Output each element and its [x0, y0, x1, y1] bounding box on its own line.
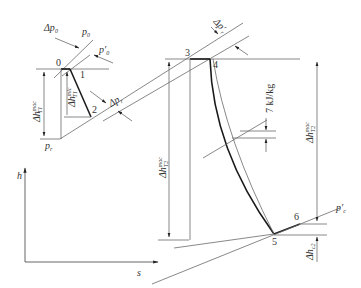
dp0-label: Δp0: [43, 22, 58, 34]
p0-prime-isobar: [62, 55, 90, 76]
dp0-arrow: [55, 38, 79, 48]
pr-isobars: Δpr: [60, 23, 249, 139]
h-axis-label: h: [17, 170, 22, 181]
dpr-label: Δpr: [106, 92, 125, 110]
dpr-arrow-2: [118, 111, 132, 121]
point-1-label: 1: [80, 69, 85, 80]
point-4-label: 4: [213, 59, 218, 70]
point-5-label: 5: [272, 236, 277, 247]
dh-t2-mac-right-label: ΔhmacT2: [304, 122, 316, 144]
s-axis-label: s: [137, 267, 141, 278]
point-3-label: 3: [185, 47, 190, 58]
point-2-label: 2: [92, 104, 97, 115]
annotation-label: 7 kJ/kg: [264, 84, 275, 113]
dh-t1-mic-label: ΔhmicT1: [66, 87, 78, 108]
pr-prime-isobar: [103, 36, 249, 121]
p0-label: p0: [81, 26, 90, 38]
pr-isobar: [60, 23, 243, 139]
dpr-prime-arrow-2: [235, 46, 248, 55]
dpr-arrow: [90, 91, 106, 103]
pr-label: pr: [44, 140, 53, 152]
dh-t2-mac-left-label: ΔhmacT2: [157, 157, 169, 179]
dh-c2-label: Δhc2: [304, 243, 316, 261]
pc-prime-label: p′c: [335, 202, 346, 214]
axes: h s: [17, 168, 158, 278]
hs-diagram: h s Δp0 p0 p′0 0 1 2 pr ΔhmacT1 Δhm: [0, 0, 361, 288]
point-6-label: 6: [294, 211, 299, 222]
dh-t1-mac-label: ΔhmacT1: [31, 101, 43, 123]
point-0-label: 0: [56, 57, 61, 68]
dp0-prime-arrow: [94, 55, 113, 63]
stage-2: Δp′r 7 kJ/kg 3 4 5 6: [152, 15, 346, 284]
annotation-leader: [203, 120, 267, 158]
p0-prime-label: p′0: [98, 44, 109, 56]
stage-1: Δp0 p0 p′0 0 1 2 pr ΔhmacT1 ΔhmicT1: [31, 22, 113, 152]
